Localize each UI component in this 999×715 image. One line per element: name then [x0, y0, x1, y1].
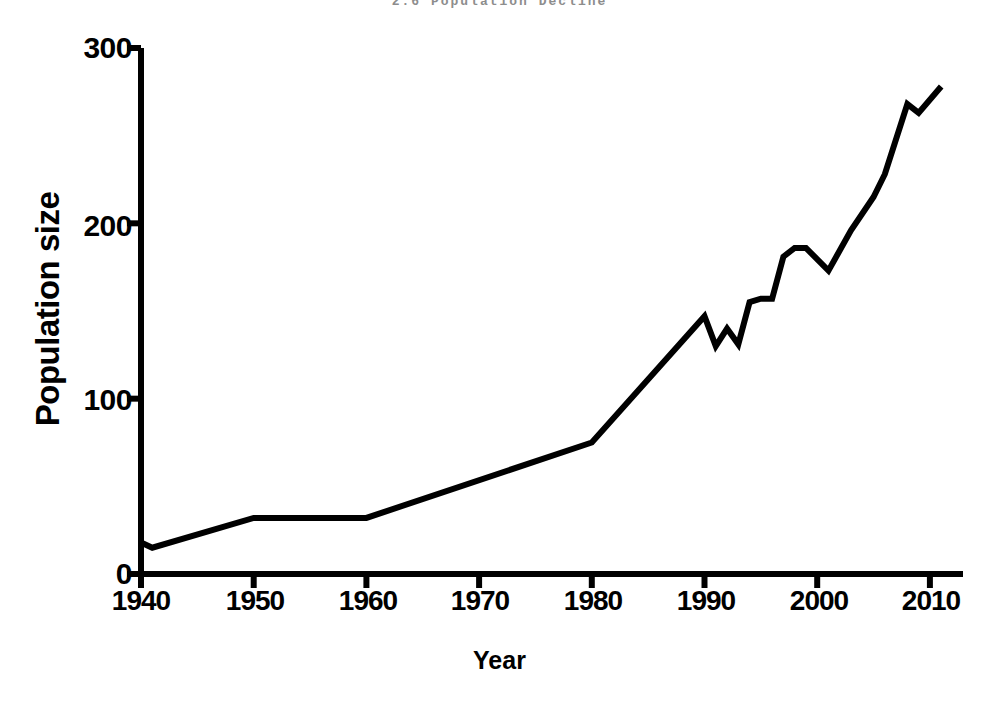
population-line-series — [141, 87, 941, 548]
chart-figure: 2.6 Population Decline Population size Y… — [0, 0, 999, 715]
plot-area — [0, 0, 999, 715]
